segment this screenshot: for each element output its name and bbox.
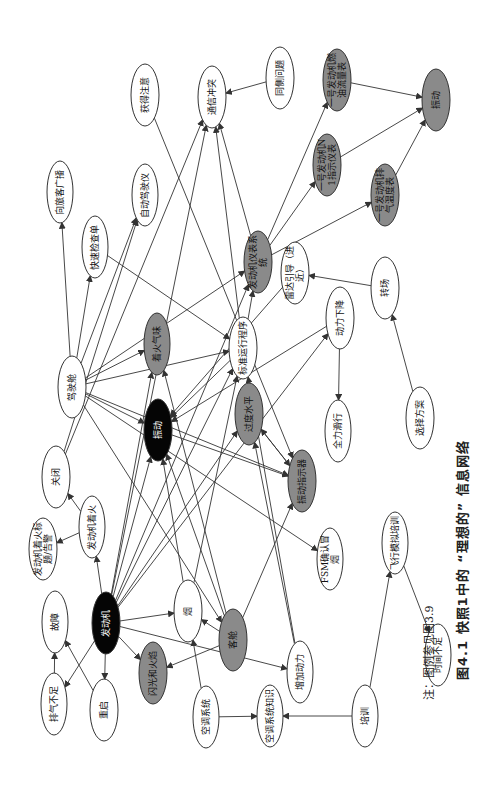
edge-n31-n34 bbox=[167, 646, 219, 668]
figure-note: 注：图例参见图3.9 bbox=[420, 606, 436, 701]
node-n31: 客舱 bbox=[219, 609, 247, 671]
node-n6: 一号发动机排气温度表 bbox=[371, 164, 399, 226]
node-n21: 关闭 bbox=[42, 446, 70, 508]
node-n24: 发动机着火标题/告警 bbox=[29, 518, 57, 580]
node-label: 培训 bbox=[359, 707, 370, 725]
edge-n31-n30 bbox=[201, 620, 219, 632]
node-label: 关闭 bbox=[50, 468, 61, 486]
node-label: 获得注意 bbox=[139, 77, 150, 113]
edge-n5-n7 bbox=[341, 108, 423, 157]
edge-n25-n20 bbox=[261, 429, 290, 465]
node-label: 振动指示器 bbox=[296, 459, 307, 504]
edge-n30-n16 bbox=[194, 376, 237, 583]
figure-caption: 图4.1 快照1中的 “理想的” 信息网络 bbox=[452, 440, 471, 680]
node-n8: 向旅客广播 bbox=[47, 161, 73, 223]
edge-n16-n19 bbox=[171, 360, 230, 417]
node-label: 标准运行程序 bbox=[237, 321, 248, 375]
edge-n6-n7 bbox=[396, 120, 426, 175]
node-n7: 振动 bbox=[422, 69, 450, 131]
edge-n11-n2 bbox=[219, 123, 250, 235]
edge-n29-n30 bbox=[120, 613, 174, 621]
node-n14: 驾驶舱 bbox=[58, 356, 86, 418]
node-label: 动力下降 bbox=[334, 300, 345, 336]
node-n1: 获得注意 bbox=[131, 64, 159, 126]
edge-n23-n24 bbox=[57, 533, 80, 543]
edge-n13-n12 bbox=[309, 275, 371, 285]
node-n26: FSM确认冒烟 bbox=[317, 528, 343, 590]
node-n16: 标准运行程序 bbox=[229, 317, 257, 379]
node-label: 向旅客广播 bbox=[54, 170, 65, 215]
node-label: 烟 bbox=[182, 607, 193, 616]
node-label: 飞行模拟培训 bbox=[389, 516, 400, 570]
edge-n16-n2 bbox=[216, 127, 240, 318]
node-n28: 故障 bbox=[42, 591, 68, 653]
edge-n14-n8 bbox=[62, 223, 70, 357]
node-n32: 排气不足 bbox=[41, 673, 67, 735]
node-n5: 一号发动机N1指示仪表 bbox=[313, 134, 341, 196]
edge-n23-n21 bbox=[68, 493, 81, 511]
edge-n29-n34 bbox=[119, 636, 141, 659]
node-n15: 着火气味 bbox=[144, 313, 170, 375]
node-n19: 振动 bbox=[144, 399, 172, 461]
node-n12: 雷达引导（进近） bbox=[281, 242, 309, 304]
node-n11: 发动机仪表系统 bbox=[244, 231, 272, 293]
node-n30: 烟 bbox=[174, 580, 202, 642]
edge-n4-n7 bbox=[351, 83, 422, 97]
edge-n29-n19 bbox=[113, 457, 151, 597]
node-n2: 通信冲突 bbox=[198, 66, 226, 128]
node-label: 一号发动机N1指示仪表 bbox=[316, 138, 337, 191]
edge-n38-n27 bbox=[370, 572, 390, 688]
node-label: 选择方案 bbox=[414, 400, 425, 436]
node-n36: 增加动力 bbox=[287, 641, 313, 703]
node-label: 通信冲突 bbox=[206, 79, 217, 115]
node-n22: 全力滑行 bbox=[325, 400, 351, 462]
node-label: 过度水平 bbox=[243, 396, 254, 432]
node-n18: 选择方案 bbox=[406, 387, 434, 449]
node-label: 重启 bbox=[98, 701, 109, 719]
node-label: 排气不足 bbox=[48, 686, 59, 722]
node-label: 闪光和火焰 bbox=[147, 651, 158, 696]
edge-n33-n28 bbox=[65, 641, 93, 691]
node-label: 快速检查单 bbox=[89, 225, 100, 270]
node-label: 着火气味 bbox=[151, 326, 162, 362]
edge-n30-n19 bbox=[163, 459, 183, 582]
node-n20: 过度水平 bbox=[235, 383, 263, 445]
node-n3: 同侧问题 bbox=[266, 47, 294, 109]
node-n13: 转场 bbox=[371, 257, 399, 319]
edge-n21-n2 bbox=[65, 120, 202, 454]
node-label: 空调系统知识 bbox=[264, 689, 275, 743]
edge-n12-n19 bbox=[170, 287, 282, 416]
node-n37: 空调系统知识 bbox=[257, 685, 283, 747]
node-label: 增加动力 bbox=[294, 654, 305, 690]
node-n4: 一号发动机燃油流量表 bbox=[323, 49, 351, 111]
node-n27: 飞行模拟培训 bbox=[382, 512, 408, 574]
edge-n29-n33 bbox=[105, 654, 106, 679]
node-label: 振动 bbox=[430, 91, 441, 109]
edge-n18-n13 bbox=[392, 315, 413, 392]
edge-n35-n37 bbox=[219, 716, 257, 717]
edge-n17-n22 bbox=[339, 349, 340, 400]
node-label: 自动驾驶仪 bbox=[139, 173, 150, 218]
edge-n9-n16 bbox=[107, 256, 229, 339]
node-n38: 培训 bbox=[352, 685, 378, 747]
node-n9: 快速检查单 bbox=[82, 216, 108, 278]
node-n23: 发动机着火 bbox=[79, 496, 105, 558]
node-label: 故障 bbox=[49, 613, 60, 631]
node-label: 发动机 bbox=[100, 610, 111, 637]
edge-n3-n2 bbox=[226, 82, 266, 93]
node-label: 驾驶舱 bbox=[66, 374, 77, 401]
node-label: 转场 bbox=[379, 279, 390, 297]
node-label: 振动 bbox=[152, 421, 163, 439]
node-n25: 振动指示器 bbox=[288, 450, 316, 512]
node-n17: 动力下降 bbox=[326, 287, 354, 349]
node-n33: 重启 bbox=[90, 679, 118, 741]
node-label: 空调系统 bbox=[200, 699, 211, 735]
node-label: 同侧问题 bbox=[274, 60, 285, 96]
edge-n16-n11 bbox=[248, 291, 253, 319]
edge-n31-n25 bbox=[243, 503, 293, 617]
node-n29: 发动机 bbox=[92, 592, 120, 654]
node-n35: 空调系统 bbox=[193, 686, 219, 748]
node-n10: 自动驾驶仪 bbox=[132, 164, 158, 226]
node-n34: 闪光和火焰 bbox=[139, 642, 167, 704]
edge-n29-n23 bbox=[96, 556, 101, 593]
